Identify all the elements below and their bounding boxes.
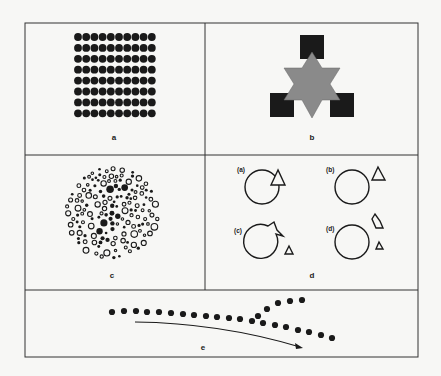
dot	[82, 55, 90, 63]
dot	[71, 193, 74, 196]
dot	[66, 211, 71, 216]
dot	[78, 225, 81, 228]
dot	[81, 200, 84, 203]
dot	[141, 223, 144, 226]
subpanel-a-label: (a)	[237, 166, 245, 174]
dot	[103, 176, 106, 179]
dot	[91, 55, 99, 63]
dot	[105, 170, 108, 173]
dot	[69, 231, 74, 236]
dot	[95, 252, 98, 255]
dot	[149, 197, 153, 201]
dot	[86, 183, 89, 186]
dot	[74, 77, 82, 85]
dot	[100, 255, 103, 258]
dot	[123, 33, 131, 41]
panel-d-label: d	[310, 271, 315, 280]
dot	[77, 230, 82, 235]
dot	[115, 214, 120, 219]
dot	[116, 223, 118, 225]
dot	[97, 245, 100, 248]
dot	[131, 171, 134, 174]
dot	[91, 178, 94, 181]
dot	[145, 189, 148, 192]
dot	[74, 55, 82, 63]
dot	[275, 300, 281, 306]
dot	[132, 109, 140, 117]
dot	[329, 335, 335, 341]
dot	[88, 223, 94, 229]
dot	[123, 66, 131, 74]
arrowhead-icon	[295, 343, 303, 349]
dot	[99, 241, 103, 245]
dot	[83, 209, 86, 212]
dot	[131, 174, 134, 177]
dot	[81, 221, 84, 224]
dot	[121, 184, 128, 191]
dot	[114, 249, 116, 251]
dot	[91, 66, 99, 74]
dot	[109, 211, 114, 216]
panel-d-circles-triangles	[244, 167, 385, 259]
dot	[107, 109, 115, 117]
dot	[115, 55, 123, 63]
dot	[82, 88, 90, 96]
dot	[123, 44, 131, 52]
subpanel-d-circle	[335, 225, 369, 259]
dot	[132, 224, 136, 228]
dot	[128, 201, 131, 204]
dot	[121, 308, 127, 314]
dot	[89, 189, 92, 192]
dot	[133, 196, 137, 200]
dot	[93, 195, 97, 199]
dot	[152, 201, 158, 207]
dot	[128, 250, 131, 253]
dot	[203, 313, 209, 319]
dot	[148, 44, 156, 52]
dot	[130, 208, 133, 211]
dot	[129, 197, 132, 200]
dot	[156, 309, 162, 315]
dot	[119, 179, 122, 182]
dot	[115, 77, 123, 85]
dot	[91, 233, 96, 238]
dot	[74, 109, 82, 117]
dot	[122, 202, 126, 206]
subpanel-d-fragment	[372, 214, 383, 228]
dot	[123, 109, 131, 117]
dot	[148, 33, 156, 41]
dot	[115, 88, 123, 96]
dot	[249, 318, 255, 324]
subpanel-b-triangle	[372, 167, 385, 180]
dot	[148, 88, 156, 96]
dot	[132, 99, 140, 107]
dot	[115, 109, 123, 117]
dot	[237, 316, 243, 322]
subpanel-c-small-triangle	[285, 246, 293, 254]
dot	[102, 194, 106, 198]
dot	[144, 182, 148, 186]
panel-e-dot-path	[109, 297, 335, 341]
dot	[140, 186, 144, 190]
dot	[76, 213, 79, 216]
dot	[264, 306, 270, 312]
dot	[66, 205, 69, 208]
dot	[136, 176, 142, 182]
dot	[180, 311, 186, 317]
dot	[306, 329, 312, 335]
dot	[123, 99, 131, 107]
dot	[115, 44, 123, 52]
dot	[108, 180, 111, 183]
dot	[140, 109, 148, 117]
dot	[140, 88, 148, 96]
dot	[77, 241, 80, 244]
dot	[148, 77, 156, 85]
dot	[141, 240, 146, 245]
dot	[132, 66, 140, 74]
dot	[72, 217, 75, 220]
dot	[131, 242, 136, 247]
dot	[99, 88, 107, 96]
dot	[136, 184, 139, 187]
dot	[150, 190, 153, 193]
panel-e-label: e	[201, 343, 206, 352]
